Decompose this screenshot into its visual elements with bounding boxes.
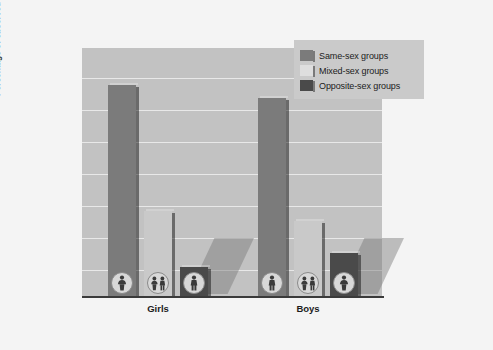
legend-swatch-side — [313, 51, 315, 62]
legend-swatch-same-sex — [300, 50, 313, 61]
mixed-pair-figure-icon — [297, 272, 319, 294]
x-tick-label-girls: Girls — [113, 303, 203, 314]
mixed-pair-figure-icon — [147, 272, 169, 294]
female-figure-icon — [111, 272, 133, 294]
legend-item-mixed-sex[interactable]: Mixed-sex groups — [300, 64, 418, 77]
bar-body — [258, 98, 286, 296]
bar-top-cap — [332, 251, 360, 253]
male-figure-icon — [183, 272, 205, 294]
female-figure-icon — [333, 272, 355, 294]
bar-boys-same-sex[interactable] — [258, 98, 286, 296]
bar-side-shadow — [322, 223, 325, 298]
x-tick-label-boys: Boys — [263, 303, 353, 314]
bar-top-cap — [260, 96, 288, 98]
legend-swatch-side — [313, 81, 315, 92]
legend-label-mixed-sex: Mixed-sex groups — [319, 66, 388, 76]
bar-top-cap — [110, 83, 138, 85]
legend-item-opposite-sex[interactable]: Opposite-sex groups — [300, 79, 418, 92]
x-axis-line — [82, 296, 384, 298]
bar-top-cap — [182, 265, 210, 267]
bar-body — [108, 85, 136, 296]
bar-girls-same-sex[interactable] — [108, 85, 136, 296]
chart-figure: Percentage of observed interactions 70 6… — [0, 0, 493, 350]
legend-item-same-sex[interactable]: Same-sex groups — [300, 49, 418, 62]
legend-swatch-opposite-sex — [300, 80, 313, 91]
legend-swatch-mixed-sex — [300, 65, 313, 76]
bar-top-cap — [296, 219, 324, 221]
bar-side-shadow — [286, 100, 289, 298]
bar-side-shadow — [136, 87, 139, 298]
legend-label-same-sex: Same-sex groups — [319, 51, 388, 61]
male-figure-icon — [261, 272, 283, 294]
bar-side-shadow — [358, 255, 361, 298]
bar-top-cap — [146, 209, 174, 211]
legend-swatch-side — [313, 66, 315, 77]
y-axis-title: Percentage of observed interactions — [0, 0, 2, 96]
chart-legend: Same-sex groups Mixed-sex groups Opposit… — [294, 40, 424, 99]
bar-side-shadow — [172, 213, 175, 298]
bar-side-shadow — [208, 269, 211, 298]
legend-label-opposite-sex: Opposite-sex groups — [319, 81, 400, 91]
